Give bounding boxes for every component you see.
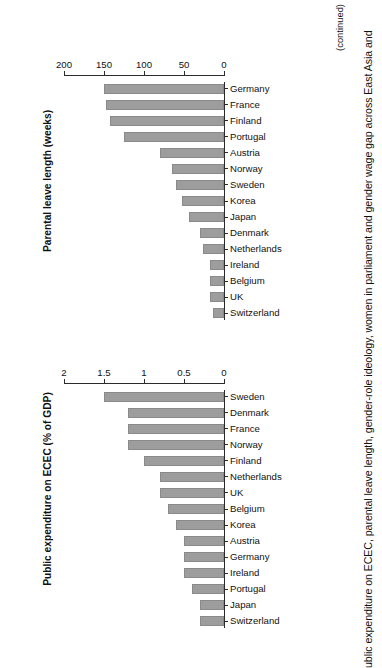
- y-tick-label: 0.5: [177, 367, 190, 378]
- y-tick: [64, 71, 65, 76]
- bar: [210, 276, 224, 286]
- x-axis-labels-expenditure: SwitzerlandJapanPortugalIrelandGermanyAu…: [230, 390, 308, 628]
- x-tick-label: Finland: [230, 456, 308, 466]
- x-tick: [224, 552, 228, 562]
- bar: [160, 148, 224, 158]
- x-tick: [224, 440, 228, 450]
- x-tick-label: Japan: [230, 212, 308, 222]
- bar: [176, 520, 224, 530]
- y-tick-label: 1.5: [97, 367, 110, 378]
- x-tick: [224, 568, 228, 578]
- x-tick: [224, 244, 228, 254]
- bar: [110, 116, 224, 126]
- bar: [106, 100, 224, 110]
- x-tick-label: Sweden: [230, 392, 308, 402]
- x-tick: [224, 424, 228, 434]
- y-tick: [104, 379, 105, 384]
- bar: [184, 552, 224, 562]
- x-axis-labels-leave: SwitzerlandUKBelgiumIrelandNetherlandsDe…: [230, 82, 308, 320]
- x-tick: [224, 520, 228, 530]
- x-tick-label: Korea: [230, 196, 308, 206]
- y-tick: [184, 379, 185, 384]
- x-axis-ticks-leave: [224, 82, 228, 320]
- x-tick: [224, 504, 228, 514]
- x-tick: [224, 472, 228, 482]
- chart-parental-leave-length: Parental leave length (weeks) Switzerlan…: [42, 42, 322, 320]
- x-tick-label: Belgium: [230, 504, 308, 514]
- bar: [213, 309, 224, 319]
- x-tick: [224, 260, 228, 270]
- x-tick-label: Austria: [230, 148, 308, 158]
- x-tick-label: Ireland: [230, 260, 308, 270]
- x-tick: [224, 100, 228, 110]
- plot-area-expenditure: [64, 390, 224, 628]
- bar: [128, 440, 224, 450]
- x-tick: [224, 116, 228, 126]
- x-tick-label: Ireland: [230, 568, 308, 578]
- x-tick: [224, 148, 228, 158]
- x-tick-label: Netherlands: [230, 472, 308, 482]
- bar: [104, 84, 224, 94]
- y-axis-ticks-expenditure: [64, 379, 224, 384]
- x-tick: [224, 408, 228, 418]
- bar: [124, 132, 224, 142]
- chart-title-expenditure: Public expenditure on ECEC (% of GDP): [42, 350, 53, 628]
- x-tick-label: Germany: [230, 552, 308, 562]
- x-axis-ticks-expenditure: [224, 390, 228, 628]
- y-tick: [104, 71, 105, 76]
- y-tick-label: 50: [179, 59, 190, 70]
- bar: [160, 488, 224, 498]
- bar: [104, 392, 224, 402]
- rotated-figure-stage: ublic expenditure on ECEC, parental leav…: [0, 0, 382, 668]
- bar: [200, 617, 224, 627]
- y-tick-label: 200: [56, 59, 72, 70]
- x-tick: [224, 292, 228, 302]
- bar: [184, 568, 224, 578]
- bar: [210, 292, 224, 302]
- x-tick-label: Portugal: [230, 132, 308, 142]
- x-tick-label: Denmark: [230, 408, 308, 418]
- y-tick: [224, 71, 225, 76]
- y-tick: [224, 379, 225, 384]
- x-tick-label: Finland: [230, 116, 308, 126]
- x-tick: [224, 212, 228, 222]
- x-tick: [224, 228, 228, 238]
- x-tick: [224, 456, 228, 466]
- y-tick: [184, 71, 185, 76]
- bar-series-leave: [64, 82, 224, 320]
- bar: [200, 228, 224, 238]
- x-tick: [224, 488, 228, 498]
- chart-public-expenditure-ecec: Public expenditure on ECEC (% of GDP) Sw…: [42, 350, 322, 628]
- x-tick-label: Korea: [230, 520, 308, 530]
- x-tick: [224, 584, 228, 594]
- y-axis-labels-leave: 050100150200: [64, 44, 224, 70]
- x-tick: [224, 536, 228, 546]
- x-tick: [224, 196, 228, 206]
- y-tick-label: 100: [136, 59, 152, 70]
- x-tick: [224, 164, 228, 174]
- x-tick: [224, 392, 228, 402]
- bar: [192, 584, 224, 594]
- x-tick-label: Netherlands: [230, 244, 308, 254]
- y-tick-label: 0: [221, 367, 226, 378]
- x-tick: [224, 600, 228, 610]
- x-tick-label: Norway: [230, 440, 308, 450]
- y-tick-label: 150: [96, 59, 112, 70]
- bar: [203, 244, 224, 254]
- bar: [182, 196, 224, 206]
- bar: [128, 424, 224, 434]
- figure-page: ublic expenditure on ECEC, parental leav…: [0, 0, 382, 668]
- bar: [189, 212, 224, 222]
- figure-caption: ublic expenditure on ECEC, parental leav…: [362, 0, 374, 668]
- x-tick: [224, 309, 228, 319]
- plot-area-leave: [64, 82, 224, 320]
- bar: [144, 456, 224, 466]
- x-tick: [224, 617, 228, 627]
- chart-title-leave: Parental leave length (weeks): [42, 42, 53, 320]
- bar-series-expenditure: [64, 390, 224, 628]
- y-tick: [144, 379, 145, 384]
- x-tick-label: Denmark: [230, 228, 308, 238]
- y-tick: [64, 379, 65, 384]
- x-tick-label: Norway: [230, 164, 308, 174]
- x-tick-label: Germany: [230, 84, 308, 94]
